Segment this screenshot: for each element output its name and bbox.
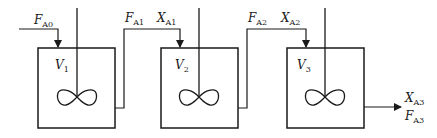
f1-label: FA1: [124, 11, 144, 27]
reactor-1-volume-label: V1: [55, 58, 69, 74]
feed-stream-line: [19, 29, 58, 47]
reactor-cascade-diagram: FA0 V1 FA1 XA1 V2 FA2 XA2 V3 XA3 FA3: [0, 0, 437, 138]
x2-label: XA2: [280, 11, 300, 27]
stream-1-to-2-line: [115, 29, 180, 108]
stream-2-to-3-line: [238, 29, 306, 108]
x3-label: XA3: [404, 91, 424, 107]
f3-label: FA3: [404, 109, 424, 125]
reactor-3-volume-label: V3: [297, 58, 311, 74]
f2-label: FA2: [247, 11, 267, 27]
x1-label: XA1: [156, 11, 176, 27]
reactor-2-volume-label: V2: [175, 58, 189, 74]
feed-label: FA0: [33, 13, 53, 29]
